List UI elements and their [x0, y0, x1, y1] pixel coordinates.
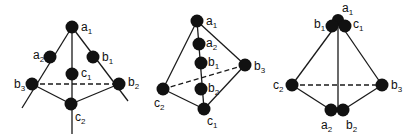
fig2-atom-a2	[193, 38, 206, 51]
fig3-label-a2: a2	[321, 118, 333, 134]
fig3-atom-b2	[337, 104, 350, 117]
fig3-atom-b1	[326, 20, 339, 33]
fig1-label-c2: c2	[75, 110, 86, 126]
fig1-atom-b1	[87, 51, 100, 64]
fig1-label-a1: a1	[81, 20, 93, 36]
fig3-label-b1: b1	[314, 17, 326, 33]
fig2-label-c2: c2	[154, 96, 165, 112]
fig3-label-c2: c2	[273, 78, 284, 94]
fig2-label-b1: b1	[208, 55, 220, 71]
fig3-edge-top-b3	[343, 28, 382, 85]
fig2-atom-b2	[195, 83, 208, 96]
fig1-label-b1: b1	[102, 50, 114, 66]
diagram-canvas: a1 a2 b1 c1 b3 b2 c2 a1 a2 b1 b3 b2 c2 c…	[0, 0, 410, 138]
fig1-edge-a1-b3	[22, 27, 72, 108]
fig1-edge-b2-c2	[71, 84, 119, 104]
fig1-atom-a1	[66, 21, 79, 34]
fig3-atom-c2	[286, 79, 299, 92]
fig2-edge-a1-c2	[163, 21, 197, 89]
fig1-label-b2: b2	[128, 75, 140, 91]
fig2-label-b2: b2	[208, 81, 220, 97]
fig3-atom-a2	[325, 104, 338, 117]
fig3-label-a1: a1	[342, 1, 354, 17]
fig1-atom-b2	[113, 78, 126, 91]
figure-3-tetrahedron: a1 b1 c1 c2 b3 a2 b2	[273, 1, 403, 134]
fig3-label-b3: b3	[391, 78, 403, 94]
fig3-atom-c1	[339, 20, 352, 33]
fig1-label-c1: c1	[81, 66, 92, 82]
fig3-label-b2: b2	[346, 118, 358, 134]
figure-2-tetrahedron: a1 a2 b1 b3 b2 c2 c1	[154, 14, 266, 130]
fig2-label-a1: a1	[206, 14, 218, 30]
fig3-edge-c2-bottom	[292, 85, 331, 110]
fig2-atom-a1	[191, 15, 204, 28]
fig2-atom-b1	[195, 57, 208, 70]
fig1-atom-a2	[44, 51, 57, 64]
figure-1-tetrahedron: a1 a2 b1 c1 b3 b2 c2	[14, 20, 140, 134]
fig1-edge-b3-c2	[32, 84, 71, 104]
fig2-label-c1: c1	[207, 114, 218, 130]
fig1-atom-c2	[65, 98, 78, 111]
fig1-atom-b3	[26, 78, 39, 91]
fig2-atom-c2	[157, 83, 170, 96]
fig1-label-b3: b3	[14, 77, 26, 93]
fig1-label-a2: a2	[33, 48, 45, 64]
fig3-edge-b3-bottom	[343, 85, 382, 110]
fig2-atom-b3	[239, 59, 252, 72]
fig3-label-c1: c1	[353, 17, 364, 33]
fig2-label-b3: b3	[254, 59, 266, 75]
fig3-edge-top-c2	[292, 28, 334, 85]
fig3-atom-b3	[376, 79, 389, 92]
fig1-atom-c1	[66, 68, 79, 81]
